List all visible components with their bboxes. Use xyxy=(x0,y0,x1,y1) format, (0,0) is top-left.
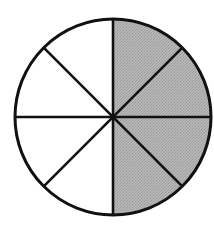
figure-root: Fraction circle divided into eighths A c… xyxy=(0,0,214,227)
fraction-circle-figure: Fraction circle divided into eighths A c… xyxy=(0,0,214,227)
